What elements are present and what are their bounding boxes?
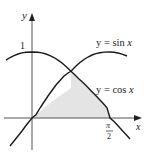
y-axis-arrow-icon: [29, 13, 35, 21]
svg-text:π: π: [106, 121, 111, 130]
svg-text:2: 2: [107, 132, 111, 141]
y-axis-label: y: [21, 9, 27, 21]
y-tick-1: 1: [20, 40, 25, 51]
graph: y 1 x π 2 y = sin x y = cos x: [0, 0, 151, 158]
x-tick-pi-over-2: π 2: [106, 121, 113, 141]
sin-curve-label: y = sin x: [96, 37, 132, 48]
x-axis-label: x: [135, 121, 141, 132]
cos-curve-label: y = cos x: [96, 84, 134, 95]
